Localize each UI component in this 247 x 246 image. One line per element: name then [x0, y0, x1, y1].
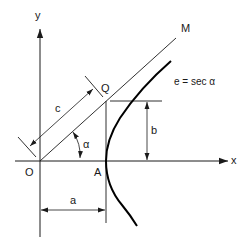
eccentricity-equation: e = sec α [174, 77, 215, 87]
hyperbola-diagram: y x O A Q M c b a α e = sec α [0, 0, 247, 246]
alpha-label: α [83, 139, 89, 150]
c-label: c [55, 103, 61, 114]
point-q-label: Q [101, 83, 110, 94]
diagram-graphics [0, 0, 247, 246]
vertex-a-label: A [94, 167, 101, 178]
origin-label: O [25, 167, 34, 178]
hyperbola-curve [106, 61, 171, 226]
line-m-label: M [181, 23, 190, 34]
x-axis-label: x [231, 155, 237, 166]
y-axis-label: y [35, 10, 41, 21]
a-label: a [70, 195, 76, 206]
c-tick-origin [18, 137, 36, 157]
b-label: b [151, 125, 157, 136]
alpha-angle-arc [73, 132, 80, 158]
